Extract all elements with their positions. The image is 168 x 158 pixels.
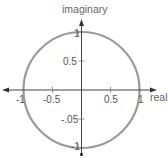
x-tick-label: 0.5 bbox=[104, 94, 118, 105]
imaginary-axis-arrow-up-icon bbox=[79, 19, 84, 26]
y-tick-label: -.05 bbox=[61, 114, 79, 125]
y-tick-label: -1 bbox=[71, 141, 80, 152]
y-axis-label: imaginary bbox=[62, 3, 108, 15]
x-tick-label: -0.5 bbox=[43, 94, 61, 105]
x-tick-label: -1 bbox=[16, 94, 25, 105]
unit-circle-diagram: imaginary real -1 -0.5 0.5 1 1 0.5 -.05 … bbox=[0, 0, 168, 158]
y-tick-label: 1 bbox=[74, 28, 80, 39]
imaginary-axis-bottom-marker-icon bbox=[80, 153, 82, 156]
real-axis-arrow-left-icon bbox=[2, 88, 9, 93]
x-tick-label: 1 bbox=[138, 94, 144, 105]
y-tick-label: 0.5 bbox=[63, 56, 77, 67]
x-axis-label: real bbox=[150, 91, 168, 103]
